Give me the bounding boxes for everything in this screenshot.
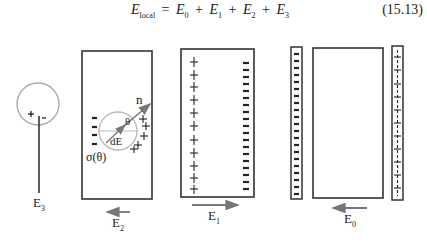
sphere-outline-icon	[17, 83, 59, 125]
label-e0: E0	[344, 211, 356, 229]
panel-e1-polarized-slab	[181, 49, 254, 205]
plate-minus-charges	[294, 54, 299, 194]
dielectric-box-e2	[82, 51, 152, 199]
label-normal-n: n	[136, 92, 143, 108]
slab-minus-charges	[243, 63, 249, 189]
plate-plus-charges	[394, 50, 401, 196]
label-e3: E3	[33, 195, 45, 213]
slab-plus-charges	[190, 57, 198, 194]
label-e1: E1	[208, 208, 220, 226]
cavity-plus-charges	[130, 115, 150, 153]
dielectric-box-e0	[313, 48, 383, 198]
panel-e0-capacitor	[291, 46, 403, 208]
panel-e3-dipole-sphere	[17, 83, 59, 193]
label-theta: θ	[125, 115, 130, 127]
diagram-svg	[0, 0, 427, 243]
label-de: dE	[110, 135, 122, 147]
label-e2: E2	[112, 215, 124, 233]
cavity-minus-charges	[92, 118, 97, 144]
panel-e2-cavity	[82, 51, 152, 212]
label-sigma-theta: σ(θ)	[86, 150, 106, 165]
